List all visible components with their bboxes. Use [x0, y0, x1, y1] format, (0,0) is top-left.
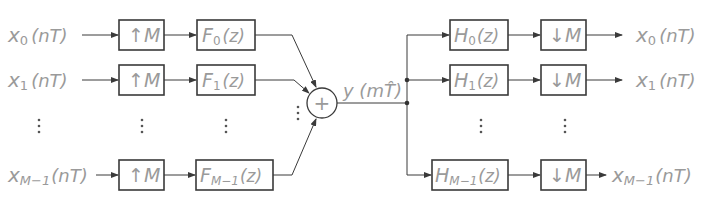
up-arrow-icon: ↑ [128, 69, 144, 91]
analysis-filter-m-1: HM−1(z) [432, 160, 508, 190]
synthesis-filter-1: F1(z) [197, 65, 255, 95]
svg-text:↓M: ↓M [549, 69, 581, 91]
plus-icon: + [314, 91, 331, 115]
svg-text:x1(nT): x1(nT) [635, 68, 696, 93]
junction-dot [405, 101, 410, 106]
ellipsis-downsamplers [564, 119, 567, 134]
ellipsis-analysis [480, 119, 483, 134]
svg-text:x0(nT): x0(nT) [7, 23, 68, 48]
fm1-to-sum-line [273, 119, 316, 175]
down-arrow-icon: ↓ [549, 24, 565, 46]
f1-to-sum-line [255, 80, 309, 93]
up-arrow-icon: ↑ [128, 24, 144, 46]
input-label-m-1: xM−1(nT) [7, 163, 88, 188]
svg-text:H0(z): H0(z) [454, 24, 499, 48]
analysis-filter-0: H0(z) [450, 20, 508, 50]
svg-text:↓M: ↓M [549, 24, 581, 46]
downsampler-m-1: ↓M [541, 160, 586, 190]
upsampler-m-1: ↑M [119, 160, 164, 190]
down-arrow-icon: ↓ [549, 69, 565, 91]
input-label-1: x1(nT) [7, 68, 68, 93]
svg-text:H1(z): H1(z) [454, 69, 499, 93]
output-label-m-1: xM−1(nT) [611, 163, 692, 188]
summer-node: + [307, 88, 337, 118]
downsampler-0: ↓M [541, 20, 586, 50]
svg-text:F0(z): F0(z) [202, 24, 245, 48]
down-arrow-icon: ↓ [549, 164, 565, 186]
analysis-filter-1: H1(z) [450, 65, 508, 95]
synthesis-filter-m-1: FM−1(z) [196, 160, 273, 190]
input-label-0: x0(nT) [7, 23, 68, 48]
transmultiplexer-diagram: x0(nT) x1(nT) xM−1(nT) ↑M ↑M ↑M F0(z) F1… [0, 0, 707, 205]
ellipsis-synthesis [225, 119, 228, 134]
svg-text:↓M: ↓M [549, 164, 581, 186]
svg-text:x0(nT): x0(nT) [635, 23, 696, 48]
upsampler-0: ↑M [119, 20, 164, 50]
svg-text:F1(z): F1(z) [202, 69, 245, 93]
synthesis-filter-0: F0(z) [197, 20, 255, 50]
f0-to-sum-line [255, 35, 316, 87]
ellipsis-summer-inputs [297, 106, 300, 121]
upsampler-1: ↑M [119, 65, 164, 95]
svg-text:↑M: ↑M [128, 164, 160, 186]
svg-text:xM−1(nT): xM−1(nT) [611, 163, 692, 188]
ellipsis-upsamplers [141, 119, 144, 134]
up-arrow-icon: ↑ [128, 164, 144, 186]
svg-text:xM−1(nT): xM−1(nT) [7, 163, 88, 188]
svg-text:↑M: ↑M [128, 69, 160, 91]
ellipsis-inputs [38, 119, 41, 134]
downsampler-1: ↓M [541, 65, 586, 95]
channel-signal-label: y (mT̂) [342, 80, 402, 101]
output-label-1: x1(nT) [635, 68, 696, 93]
svg-text:↑M: ↑M [128, 24, 160, 46]
output-label-0: x0(nT) [635, 23, 696, 48]
svg-text:x1(nT): x1(nT) [7, 68, 68, 93]
